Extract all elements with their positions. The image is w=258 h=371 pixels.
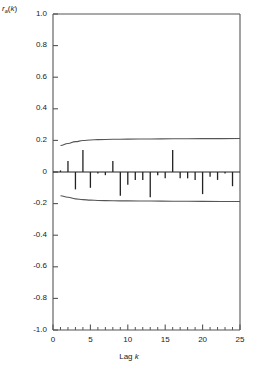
chart-canvas xyxy=(0,0,258,371)
x-tick-label: 10 xyxy=(118,335,138,344)
y-tick-label: -0.4 xyxy=(17,230,47,239)
x-tick-label: 15 xyxy=(155,335,175,344)
confidence-band-line xyxy=(60,139,240,146)
stem-series-group xyxy=(53,150,240,197)
y-tick-label: 0.2 xyxy=(17,135,47,144)
x-tick-label: 5 xyxy=(80,335,100,344)
y-tick-label: 1.0 xyxy=(17,9,47,18)
y-tick-label: -0.6 xyxy=(17,261,47,270)
y-tick-label: -0.8 xyxy=(17,293,47,302)
x-tick-label: 20 xyxy=(193,335,213,344)
chart-figure: ra(k) Lag k 1.00.80.60.40.20-0.2-0.4-0.6… xyxy=(0,0,258,371)
y-tick-label: 0 xyxy=(17,167,47,176)
y-tick-label: -0.2 xyxy=(17,198,47,207)
y-tick-label: 0.6 xyxy=(17,72,47,81)
x-tick-label: 25 xyxy=(230,335,250,344)
y-tick-label: 0.8 xyxy=(17,40,47,49)
y-tick-label: 0.4 xyxy=(17,103,47,112)
y-tick-label: -1.0 xyxy=(17,325,47,334)
x-tick-label: 0 xyxy=(43,335,63,344)
